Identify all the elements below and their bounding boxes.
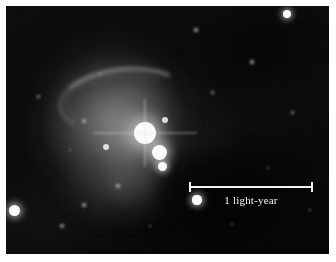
film-grain-overlay — [6, 6, 329, 254]
photographic-plate: 1 light-year — [6, 6, 329, 254]
figure-plate: 1 light-year — [0, 0, 336, 262]
